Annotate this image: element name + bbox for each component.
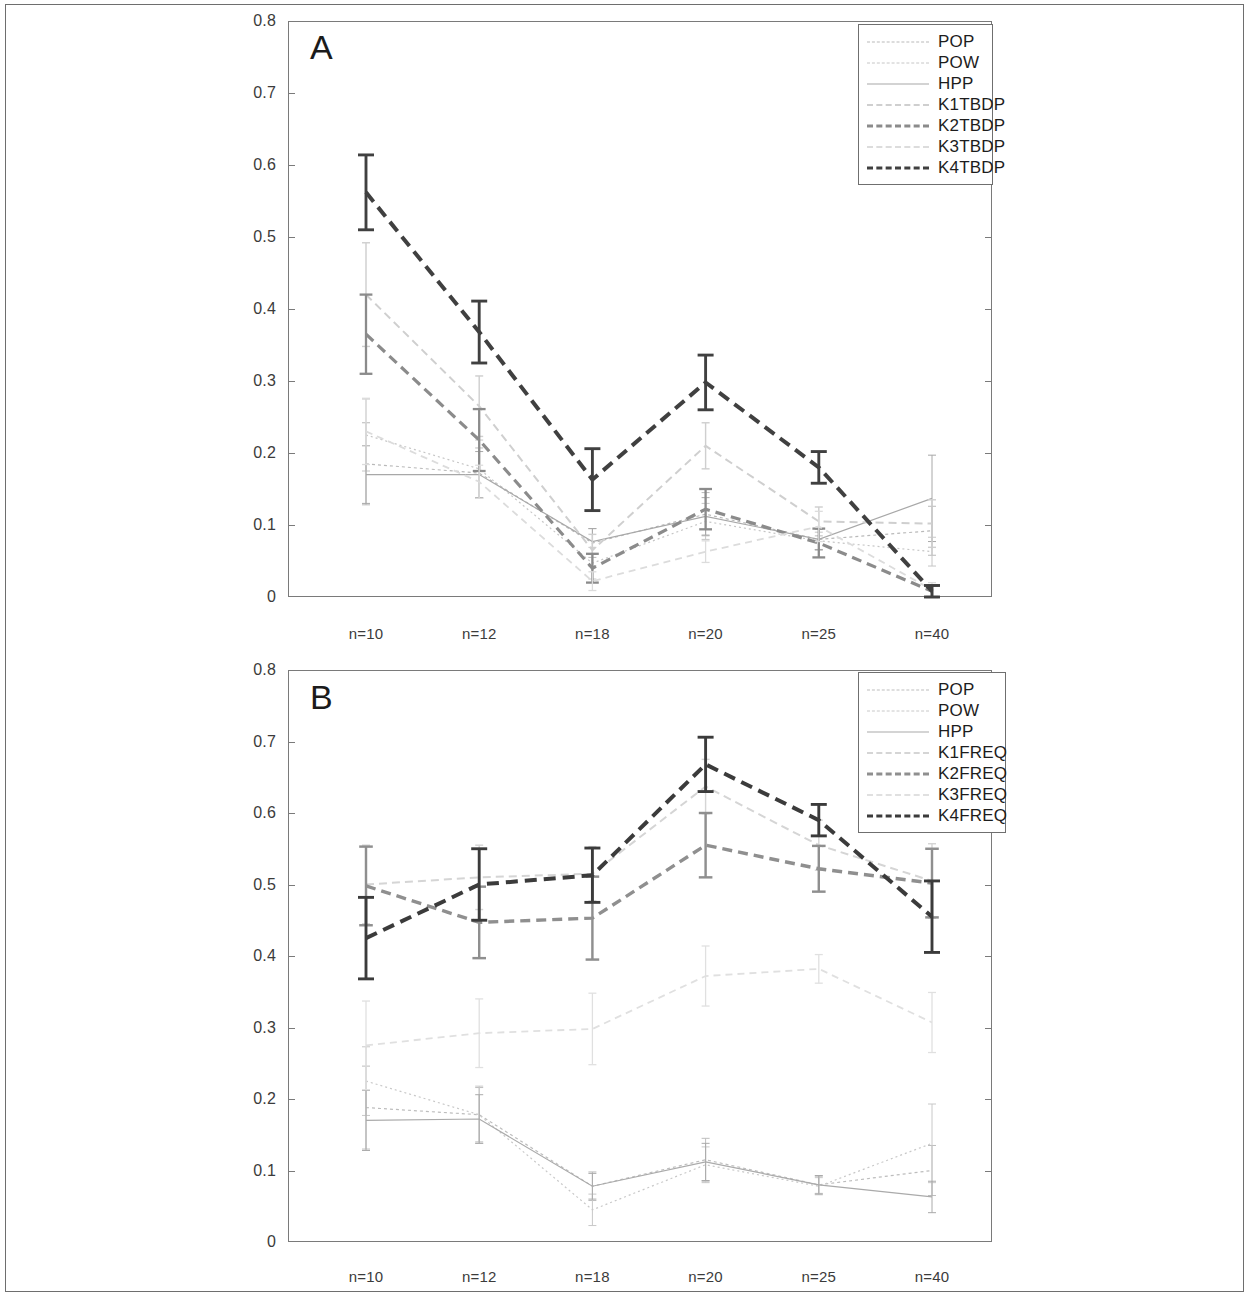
y-axis-tick-mark-right	[985, 885, 992, 886]
y-axis-tick-mark	[288, 1028, 295, 1029]
y-axis-tick-mark	[288, 1099, 295, 1100]
x-axis-tick-label: n=20	[688, 1268, 723, 1285]
legend-line-icon	[867, 747, 929, 759]
y-axis-tick-mark	[288, 813, 295, 814]
legend-item-k1freq[interactable]: K1FREQ	[867, 742, 997, 763]
legend-line-icon	[867, 684, 929, 696]
x-axis-tick-label: n=40	[915, 1268, 950, 1285]
y-axis-tick-mark-right	[985, 1028, 992, 1029]
legend-label: K4FREQ	[938, 806, 1007, 826]
legend-line-icon	[867, 705, 929, 717]
legend-item-k2freq[interactable]: K2FREQ	[867, 763, 997, 784]
legend-item-pop[interactable]: POP	[867, 679, 997, 700]
legend-item-pow[interactable]: POW	[867, 700, 997, 721]
y-axis-tick-mark-right	[985, 956, 992, 957]
y-axis-tick-label: 0.2	[230, 1090, 276, 1108]
y-axis-tick-label: 0.1	[230, 1162, 276, 1180]
legend-label: K3FREQ	[938, 785, 1007, 805]
legend-line-icon	[867, 810, 929, 822]
y-axis-tick-mark-right	[985, 1099, 992, 1100]
x-axis-tick-label: n=25	[802, 1268, 837, 1285]
panel-letter-b: B	[310, 678, 333, 717]
y-axis-tick-label: 0.4	[230, 947, 276, 965]
y-axis-tick-mark	[288, 956, 295, 957]
y-axis-tick-mark-right	[985, 670, 992, 671]
legend-line-icon	[867, 726, 929, 738]
x-axis-tick-label: n=18	[575, 1268, 610, 1285]
legend-label: HPP	[938, 722, 974, 742]
panel-b: 00.10.20.30.40.50.60.70.8n=10n=12n=18n=2…	[0, 0, 1255, 1299]
y-axis-tick-label: 0.6	[230, 804, 276, 822]
legend-label: K1FREQ	[938, 743, 1007, 763]
x-axis-tick-label: n=12	[462, 1268, 497, 1285]
y-axis-tick-label: 0	[230, 1233, 276, 1251]
x-axis-tick-label: n=10	[349, 1268, 384, 1285]
y-axis-tick-mark	[288, 1171, 295, 1172]
y-axis-tick-mark	[288, 742, 295, 743]
y-axis-tick-label: 0.8	[230, 661, 276, 679]
y-axis-tick-label: 0.5	[230, 876, 276, 894]
legend-item-k4freq[interactable]: K4FREQ	[867, 805, 997, 826]
legend-item-k3freq[interactable]: K3FREQ	[867, 784, 997, 805]
y-axis-tick-label: 0.7	[230, 733, 276, 751]
legend-label: POW	[938, 701, 979, 721]
y-axis-tick-label: 0.3	[230, 1019, 276, 1037]
legend-line-icon	[867, 768, 929, 780]
legend-item-hpp[interactable]: HPP	[867, 721, 997, 742]
y-axis-tick-mark	[288, 670, 295, 671]
legend-b: POPPOWHPPK1FREQK2FREQK3FREQK4FREQ	[858, 672, 1006, 833]
y-axis-tick-mark	[288, 885, 295, 886]
legend-label: POP	[938, 680, 975, 700]
y-axis-tick-mark-right	[985, 1171, 992, 1172]
legend-line-icon	[867, 789, 929, 801]
legend-label: K2FREQ	[938, 764, 1007, 784]
